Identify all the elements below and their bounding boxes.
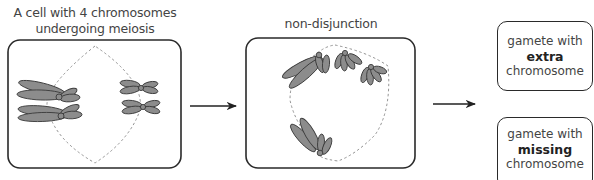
chromosome-nd-small-top xyxy=(333,50,363,71)
gamete-missing-emphasis: missing xyxy=(518,142,572,157)
chromosome-small-1 xyxy=(120,79,159,95)
chromosome-nd-small-right xyxy=(359,64,388,85)
gamete-extra-emphasis: extra xyxy=(526,49,563,64)
chromosome-nd-large-bottom xyxy=(287,116,333,156)
gamete-extra-box: gamete with extra chromosome xyxy=(497,21,593,91)
cell-box-non-disjunction xyxy=(246,38,415,168)
chromosome-nd-large-top xyxy=(280,52,330,91)
chromosome-large-2 xyxy=(18,102,83,122)
gamete-extra-line3: chromosome xyxy=(506,64,584,79)
chromosome-large-1 xyxy=(17,77,80,102)
chromosome-small-2 xyxy=(122,99,161,115)
gamete-extra-line1: gamete with xyxy=(507,34,582,49)
gamete-missing-box: gamete with missing chromosome xyxy=(497,117,593,180)
gamete-missing-line3: chromosome xyxy=(506,157,584,172)
gamete-missing-line1: gamete with xyxy=(507,127,582,142)
